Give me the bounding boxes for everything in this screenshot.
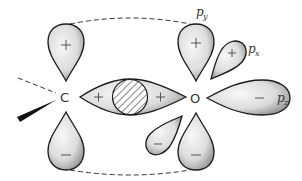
o-py-upper-lobe bbox=[178, 24, 214, 81]
c-py-lower-lobe bbox=[48, 112, 84, 170]
svg-text:x: x bbox=[255, 49, 260, 58]
c-wedge-bond bbox=[17, 100, 56, 122]
co-orbital-diagram: C O p y p x p z bbox=[0, 0, 302, 181]
c-bond-dashed-line bbox=[18, 78, 56, 93]
o-px-upper-lobe bbox=[211, 41, 246, 79]
label-px: p x bbox=[248, 42, 260, 58]
svg-text:z: z bbox=[283, 98, 289, 107]
atom-label-o: O bbox=[190, 91, 200, 106]
o-px-lower-lobe bbox=[146, 116, 182, 155]
sigma-overlap-region bbox=[113, 80, 148, 115]
label-py: p y bbox=[196, 5, 208, 21]
pi-bond-bottom-dashed-line bbox=[70, 170, 190, 175]
atom-label-c: C bbox=[60, 90, 69, 105]
svg-text:y: y bbox=[202, 12, 208, 21]
pi-bond-top-dashed-line bbox=[70, 18, 190, 24]
o-py-lower-lobe bbox=[178, 113, 214, 170]
c-py-upper-lobe bbox=[48, 24, 84, 81]
